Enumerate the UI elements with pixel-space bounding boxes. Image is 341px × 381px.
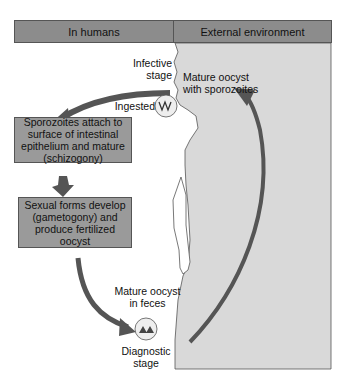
schizogony-text: Sporozoites attach to surface of intesti… <box>17 116 129 164</box>
header-in-humans: In humans <box>14 20 174 43</box>
schizogony-box: Sporozoites attach to surface of intesti… <box>14 117 132 163</box>
mature-oocyst-sporozoites-label: Mature oocyst with sporozoites <box>183 71 293 95</box>
header-external-environment: External environment <box>173 20 332 43</box>
header-external-environment-label: External environment <box>201 26 305 38</box>
diagnostic-stage-label: Diagnostic stage <box>115 345 177 369</box>
infective-stage-label: Infective stage <box>110 57 172 81</box>
diagnostic-oocyst-icon <box>135 318 157 340</box>
life-cycle-diagram: In humans External environment Infective… <box>0 0 341 381</box>
ingested-label: Ingested <box>100 100 155 112</box>
gametogony-box: Sexual forms develop (gametogony) and pr… <box>18 197 132 248</box>
gametogony-text: Sexual forms develop (gametogony) and pr… <box>21 199 129 247</box>
mature-oocyst-feces-label: Mature oocyst in feces <box>110 285 185 309</box>
arrowhead-feces <box>119 318 136 336</box>
arrow-schizogony-to-gametogony <box>52 176 74 197</box>
header-in-humans-label: In humans <box>68 26 119 38</box>
